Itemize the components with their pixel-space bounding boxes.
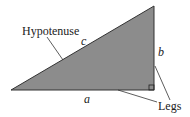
side-b-label: b <box>158 45 164 59</box>
side-c-label: c <box>81 34 87 48</box>
leg-b-leader-line <box>155 66 170 100</box>
hypotenuse-label: Hypotenuse <box>22 24 79 38</box>
triangle <box>11 6 154 90</box>
side-a-label: a <box>84 92 90 106</box>
leg-a-leader-line <box>118 90 157 102</box>
right-triangle-diagram: Hypotenuse c b a Legs <box>0 0 190 117</box>
hypotenuse-leader-line <box>47 37 63 60</box>
legs-label: Legs <box>158 99 182 113</box>
